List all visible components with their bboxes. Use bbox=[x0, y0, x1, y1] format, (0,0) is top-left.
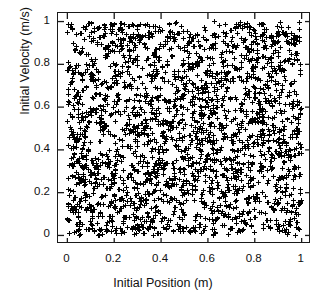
x-tick-label: 0.4 bbox=[152, 253, 168, 265]
data-points-layer bbox=[58, 13, 310, 243]
y-tick-label: 0.4 bbox=[34, 143, 50, 155]
y-axis-title: Initial Velocity (m/s) bbox=[16, 0, 34, 141]
x-tick-label: 0 bbox=[63, 253, 69, 265]
x-tick-label: 0.6 bbox=[199, 253, 215, 265]
x-tick-label: 0.8 bbox=[246, 253, 262, 265]
y-tick-label: 0.2 bbox=[34, 186, 50, 198]
y-tick-label: 0.8 bbox=[34, 58, 50, 70]
y-tick-label: 0 bbox=[44, 229, 50, 241]
x-tick-label: 1 bbox=[297, 253, 303, 265]
y-axis-title-wrapper: Initial Velocity (m/s) bbox=[16, 0, 34, 141]
scatter-plot-figure: 00.20.40.60.81 00.20.40.60.81 Initial Po… bbox=[0, 0, 326, 301]
axis-ticks-layer bbox=[58, 13, 310, 243]
plot-area bbox=[57, 12, 310, 243]
x-tick-label: 0.2 bbox=[105, 253, 121, 265]
y-tick-label: 1 bbox=[44, 15, 50, 27]
x-axis-title: Initial Position (m) bbox=[0, 276, 326, 290]
y-tick-label: 0.6 bbox=[34, 100, 50, 112]
